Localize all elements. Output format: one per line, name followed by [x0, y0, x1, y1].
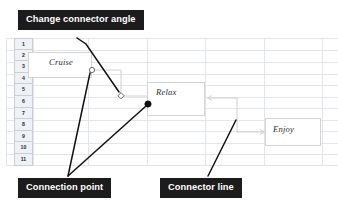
row-header-8[interactable]: 8: [14, 119, 33, 131]
shape-cruise[interactable]: Cruise: [28, 52, 92, 78]
row-header-6[interactable]: 6: [14, 96, 33, 108]
row-header-7[interactable]: 7: [14, 108, 33, 120]
shape-relax-label: Relax: [156, 87, 177, 97]
shape-enjoy-label: Enjoy: [273, 124, 294, 134]
callout-connector-line: Connector line: [160, 178, 242, 198]
row-header-1[interactable]: 1: [14, 38, 33, 50]
callout-connection-point: Connection point: [18, 178, 111, 198]
row-header-9[interactable]: 9: [14, 131, 33, 143]
shape-cruise-label: Cruise: [49, 57, 73, 67]
row-header-10[interactable]: 10: [14, 142, 33, 154]
screenshot-root: 1 2 3 4 5 6 7 8 9 10 11 Cruise Relax Enj…: [0, 0, 338, 210]
row-header-11[interactable]: 11: [14, 154, 33, 166]
row-header-5[interactable]: 5: [14, 84, 33, 96]
callout-change-connector-angle: Change connector angle: [18, 10, 144, 30]
shape-relax[interactable]: Relax: [147, 82, 205, 116]
shape-enjoy[interactable]: Enjoy: [265, 118, 321, 146]
